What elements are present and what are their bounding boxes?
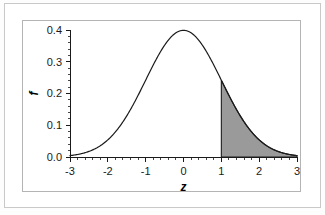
x-axis: -3-2-10123 (65, 157, 300, 177)
x-axis-tick-label: 3 (294, 165, 300, 177)
x-axis-tick-label: 1 (218, 165, 224, 177)
y-axis-tick-label: 0.0 (47, 151, 62, 163)
density-curve (70, 30, 297, 155)
shaded-tail-region (221, 80, 297, 157)
y-axis-tick-label: 0.2 (47, 87, 62, 99)
normal-distribution-chart: 0.00.10.20.30.4 -3-2-10123 f z (22, 20, 301, 192)
x-axis-title: z (180, 180, 187, 192)
x-axis-tick-label: 0 (180, 165, 186, 177)
shaded-area-path (221, 80, 297, 157)
x-axis-tick-label: -2 (103, 165, 113, 177)
x-axis-tick-label: -1 (141, 165, 151, 177)
figure-root: 0.00.10.20.30.4 -3-2-10123 f z (0, 0, 325, 215)
y-axis: 0.00.10.20.30.4 (47, 24, 70, 163)
normal-curve-path (70, 30, 297, 155)
y-axis-title: f (27, 91, 41, 96)
x-axis-tick-label: 2 (256, 165, 262, 177)
y-axis-tick-label: 0.3 (47, 56, 62, 68)
y-axis-tick-label: 0.4 (47, 24, 62, 36)
y-axis-tick-label: 0.1 (47, 119, 62, 131)
x-axis-tick-label: -3 (65, 165, 75, 177)
